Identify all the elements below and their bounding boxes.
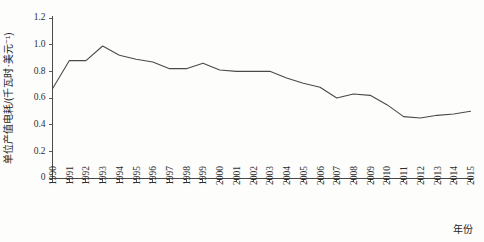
y-tick-label: 1.0 bbox=[34, 39, 46, 49]
y-axis-tick-labels: 00.20.40.60.81.01.2 bbox=[34, 12, 46, 182]
x-tick-label: 1995 bbox=[132, 166, 142, 185]
x-tick-label: 2002 bbox=[249, 166, 259, 185]
x-tick-label: 1993 bbox=[98, 166, 108, 185]
line-chart: 00.20.40.60.81.01.2 19901991199219931994… bbox=[0, 0, 484, 242]
x-tick-label: 1990 bbox=[48, 166, 58, 185]
y-tick-label: 1.2 bbox=[34, 12, 46, 22]
x-tick-label: 2007 bbox=[332, 166, 342, 185]
x-axis-title: 年份 bbox=[453, 223, 473, 235]
x-tick-label: 1996 bbox=[148, 166, 158, 185]
x-tick-label: 2004 bbox=[282, 166, 292, 185]
data-series-line bbox=[53, 46, 471, 118]
x-tick-label: 2008 bbox=[349, 166, 359, 185]
x-tick-label: 2013 bbox=[433, 166, 443, 185]
y-axis-ticks bbox=[49, 18, 53, 178]
x-tick-label: 2012 bbox=[416, 166, 426, 185]
x-tick-label: 1992 bbox=[81, 166, 91, 185]
x-tick-label: 1994 bbox=[115, 166, 125, 185]
x-tick-label: 2015 bbox=[466, 166, 476, 185]
x-tick-label: 1998 bbox=[182, 166, 192, 185]
x-tick-label: 1991 bbox=[65, 166, 75, 185]
x-axis-tick-labels: 1990199119921993199419951996199719981999… bbox=[48, 166, 476, 185]
x-tick-label: 2006 bbox=[316, 166, 326, 185]
y-tick-label: 0.8 bbox=[34, 66, 46, 76]
y-tick-label: 0.2 bbox=[34, 146, 46, 156]
y-tick-label: 0.6 bbox=[34, 92, 46, 102]
y-tick-label: 0 bbox=[41, 172, 46, 182]
x-tick-label: 2010 bbox=[382, 166, 392, 185]
y-axis-title: 单位产值电耗/(千瓦时·美元⁻¹) bbox=[2, 32, 14, 163]
chart-container: 00.20.40.60.81.01.2 19901991199219931994… bbox=[0, 0, 484, 242]
x-tick-label: 2014 bbox=[449, 166, 459, 185]
x-tick-label: 2000 bbox=[215, 166, 225, 185]
x-tick-label: 2011 bbox=[399, 166, 409, 185]
x-tick-label: 2009 bbox=[366, 166, 376, 185]
x-tick-label: 1999 bbox=[198, 166, 208, 185]
y-tick-label: 0.4 bbox=[34, 119, 46, 129]
x-tick-label: 1997 bbox=[165, 166, 175, 185]
x-tick-label: 2005 bbox=[299, 166, 309, 185]
x-tick-label: 2003 bbox=[265, 166, 275, 185]
x-tick-label: 2001 bbox=[232, 166, 242, 185]
